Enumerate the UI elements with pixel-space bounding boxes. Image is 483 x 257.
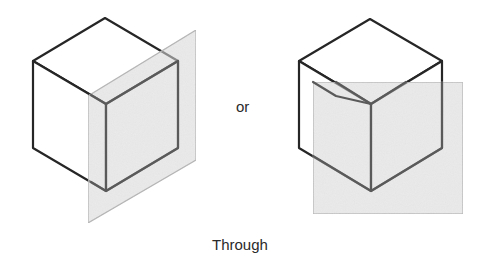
separator-or-label: or [236, 99, 249, 114]
right-figure [299, 19, 463, 214]
caption-label: Through [212, 237, 268, 252]
left-figure [33, 18, 196, 223]
diagram-canvas [0, 0, 483, 257]
